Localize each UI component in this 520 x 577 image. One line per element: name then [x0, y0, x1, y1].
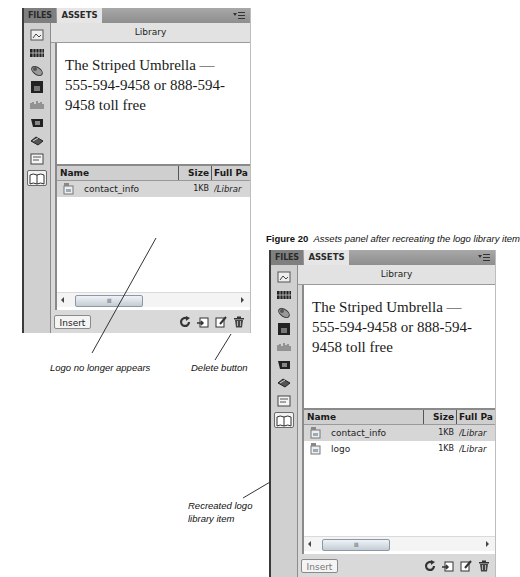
list-item[interactable]: logo 1KB /Librar: [304, 441, 495, 457]
column-name-header[interactable]: Name: [307, 410, 336, 424]
swf-icon[interactable]: [277, 323, 291, 335]
library-item-icon: [310, 427, 321, 439]
item-size: 1KB: [424, 425, 454, 441]
annotation-recreated-logo: Recreated logo library item: [188, 499, 252, 525]
item-path: /Librar: [459, 425, 495, 441]
images-icon[interactable]: [277, 271, 291, 283]
figure-caption-text: Assets panel after recreating the logo l…: [314, 233, 520, 244]
list-item[interactable]: contact_info 1KB /Librar: [304, 425, 495, 441]
panel-options-menu-icon[interactable]: [478, 252, 490, 262]
scroll-left-arrow-icon[interactable]: [308, 541, 311, 547]
tab-files[interactable]: FILES: [271, 250, 303, 265]
new-library-item-icon[interactable]: [442, 560, 454, 572]
shockwave-icon[interactable]: [277, 341, 291, 353]
panel-tab-bar: FILES ASSETS: [271, 250, 495, 265]
scripts-icon[interactable]: [277, 377, 291, 389]
figure-caption: Figure 20 Assets panel after recreating …: [266, 233, 520, 244]
library-item-icon: [310, 443, 321, 455]
item-size: 1KB: [424, 441, 454, 457]
templates-icon[interactable]: [277, 395, 291, 407]
figure-label: Figure 20: [266, 233, 308, 244]
annotation-recreated-line2: library item: [188, 512, 252, 525]
delete-icon[interactable]: [478, 560, 490, 572]
scroll-thumb[interactable]: III: [322, 539, 390, 551]
insert-button[interactable]: Insert: [301, 559, 338, 573]
urls-icon[interactable]: [277, 307, 291, 319]
annotation-delete-button: Delete button: [191, 362, 248, 373]
list-header: Name Size Full Pa: [304, 410, 495, 425]
edit-icon[interactable]: [460, 560, 472, 572]
assets-panel-after: FILES ASSETS Library The Striped Umbrell…: [269, 250, 496, 577]
library-item-preview: The Striped Umbrella — 555-594-9458 or 8…: [302, 285, 495, 408]
tab-assets[interactable]: ASSETS: [304, 250, 349, 266]
library-icon[interactable]: [274, 412, 294, 428]
item-name: contact_info: [331, 425, 386, 441]
annotation-recreated-line1: Recreated logo: [188, 499, 252, 512]
item-name: logo: [331, 441, 350, 457]
colors-icon[interactable]: [277, 289, 291, 301]
item-path: /Librar: [459, 441, 495, 457]
column-path-header[interactable]: Full Pa: [459, 410, 495, 424]
horizontal-scrollbar[interactable]: III: [304, 536, 495, 551]
library-item-list: Name Size Full Pa contact_info 1KB /Libr…: [302, 408, 495, 554]
category-title: Library: [298, 265, 495, 285]
refresh-icon[interactable]: [424, 560, 436, 572]
column-size-header[interactable]: Size: [424, 410, 454, 424]
annotation-logo-gone: Logo no longer appears: [50, 362, 150, 373]
panel-toolbar: Insert: [298, 555, 495, 577]
asset-category-sidebar: [271, 265, 298, 577]
preview-text: The Striped Umbrella — 555-594-9458 or 8…: [312, 297, 489, 357]
scroll-right-arrow-icon[interactable]: [486, 541, 489, 547]
movies-icon[interactable]: [277, 359, 291, 371]
